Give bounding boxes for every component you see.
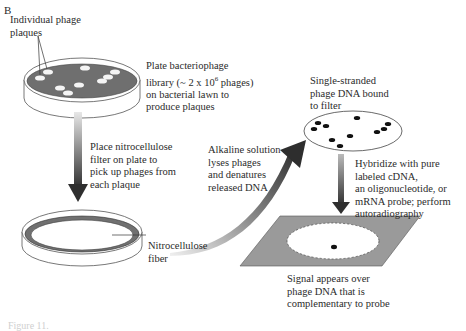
label-place-filter: Place nitrocellulose filter on plate to … — [90, 141, 176, 191]
label-plate-library: Plate bacteriophage library (~ 2 x 106 p… — [146, 60, 253, 114]
petri-dish-plaques — [24, 36, 140, 118]
down-arrow-right — [332, 154, 350, 214]
label-single-stranded: Single-stranded phage DNA bound to filte… — [310, 75, 389, 113]
figure-caption: Figure 11. — [8, 320, 49, 331]
label-nitrocellulose: Nitrocellulose fiber — [148, 240, 207, 265]
petri-dish-filter — [22, 210, 146, 266]
autoradiograph-film — [240, 216, 420, 266]
dna-filter-disc — [304, 111, 402, 151]
label-signal: Signal appears over phage DNA that is co… — [287, 273, 390, 311]
down-arrow-left — [68, 112, 88, 202]
label-alkaline: Alkaline solution lyses phages and denat… — [208, 144, 281, 194]
label-plaques: Individual phage plaques — [10, 14, 81, 39]
label-hybridize: Hybridize with pure labeled cDNA, an oli… — [355, 158, 451, 221]
signal-spot — [331, 245, 337, 249]
